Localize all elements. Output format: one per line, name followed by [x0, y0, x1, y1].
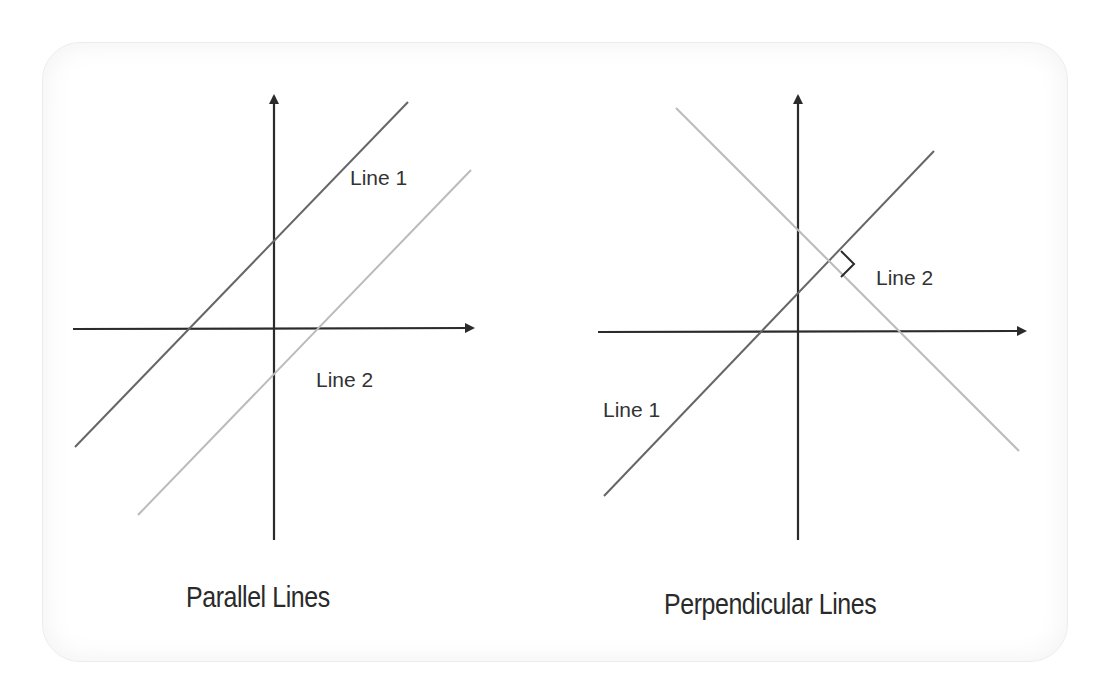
parallel-lines-title: Parallel Lines: [186, 581, 330, 614]
x-axis: [598, 331, 1025, 332]
line-2-label: Line 2: [316, 368, 373, 391]
line-1-label: Line 1: [603, 398, 660, 421]
diagram-canvas: Line 1 Line 2 Line 2 Line 1: [0, 0, 1108, 695]
perpendicular-lines-panel: Line 2 Line 1: [598, 96, 1025, 540]
parallel-lines-panel: Line 1 Line 2: [73, 96, 473, 540]
line-1-label: Line 1: [350, 166, 407, 189]
right-angle-marker: [841, 251, 854, 277]
perpendicular-lines-title: Perpendicular Lines: [664, 588, 876, 621]
line-2: [138, 170, 471, 515]
line-2: [676, 108, 1019, 451]
line-1: [75, 102, 408, 447]
line-1: [604, 151, 934, 496]
line-2-label: Line 2: [876, 266, 933, 289]
